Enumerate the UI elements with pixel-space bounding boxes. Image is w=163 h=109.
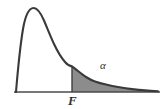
figure-root: F α — [0, 0, 163, 109]
alpha-area-label: α — [100, 60, 106, 71]
f-distribution-chart — [0, 0, 163, 109]
alpha-tail-shaded-region — [72, 66, 158, 92]
critical-value-label: F — [68, 94, 77, 107]
